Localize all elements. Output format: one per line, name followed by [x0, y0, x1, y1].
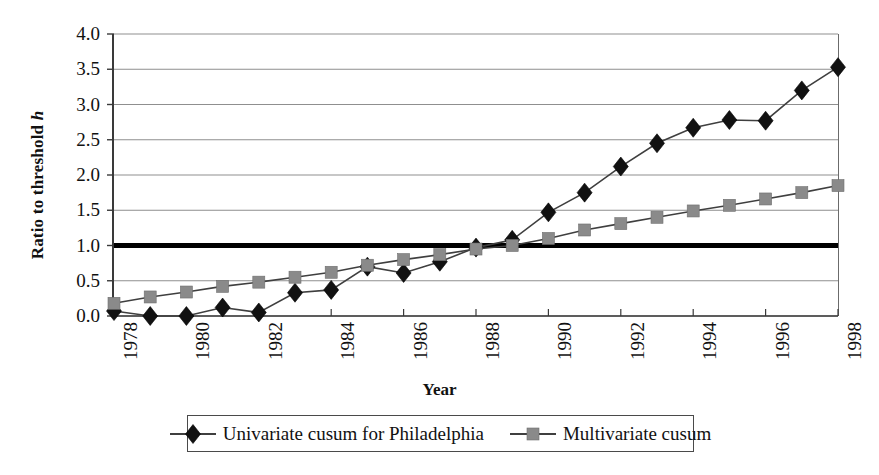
data-point-marker [722, 111, 737, 130]
legend-entry-1[interactable]: Univariate cusum for Philadelphia [170, 423, 484, 445]
x-axis-tick-label: 1996 [773, 322, 792, 360]
data-point-marker [398, 254, 410, 266]
legend-label: Multivariate cusum [563, 424, 711, 443]
data-point-marker [143, 307, 158, 326]
data-point-marker [541, 203, 556, 222]
data-point-marker [215, 298, 230, 317]
data-point-marker [434, 249, 446, 261]
y-axis-tick-label: 1.5 [54, 200, 100, 219]
data-point-marker [650, 134, 665, 153]
data-point-marker [185, 424, 200, 443]
data-point-marker [794, 81, 809, 100]
data-point-marker [108, 297, 120, 309]
data-point-marker [325, 266, 337, 278]
data-point-marker [527, 428, 539, 440]
data-point-marker [687, 205, 699, 217]
data-point-marker [613, 157, 628, 176]
x-axis-title: Year [0, 380, 879, 400]
data-point-marker [579, 224, 591, 236]
x-axis-tick-label: 1994 [700, 322, 719, 360]
x-axis-tick-label: 1990 [555, 322, 574, 360]
legend-label: Univariate cusum for Philadelphia [223, 424, 484, 443]
data-point-marker [144, 291, 156, 303]
legend-entry-2[interactable]: Multivariate cusum [510, 423, 711, 445]
data-point-marker [577, 183, 592, 202]
series-line [114, 67, 838, 316]
x-axis-tick-label: 1992 [628, 322, 647, 360]
x-axis-tick-label: 1978 [121, 322, 140, 360]
data-point-marker [396, 263, 411, 282]
y-axis-tick-label: 4.0 [54, 24, 100, 43]
y-axis-tick-label: 2.5 [54, 130, 100, 149]
y-axis-tick-label: 1.0 [54, 236, 100, 255]
x-axis-tick-label: 1982 [266, 322, 285, 360]
data-point-marker [542, 232, 554, 244]
data-point-marker [723, 199, 735, 211]
y-axis-tick-label: 0.0 [54, 306, 100, 325]
y-axis-tick-label: 0.5 [54, 271, 100, 290]
data-point-marker [180, 286, 192, 298]
data-point-marker [253, 276, 265, 288]
data-point-marker [760, 193, 772, 205]
x-axis-tick-label: 1980 [193, 322, 212, 360]
data-point-marker [470, 243, 482, 255]
y-axis-title-symbol: h [28, 111, 47, 121]
chart-legend: Univariate cusum for PhiladelphiaMultiva… [187, 415, 694, 452]
legend-diamond-marker-icon [170, 423, 216, 445]
data-point-marker [324, 280, 339, 299]
x-axis-tick-label: 1984 [338, 322, 357, 360]
x-axis-tick-label: 1998 [845, 322, 864, 360]
data-point-marker [288, 283, 303, 302]
data-point-marker [361, 259, 373, 271]
data-point-marker [796, 187, 808, 199]
chart-figure: Ratio to threshold h 0.00.51.01.52.02.53… [0, 0, 879, 475]
data-point-marker [651, 211, 663, 223]
y-axis-tick-label: 3.5 [54, 59, 100, 78]
data-point-marker [289, 271, 301, 283]
plot-area [112, 34, 839, 316]
data-point-marker [832, 180, 844, 192]
x-axis-tick-label: 1988 [483, 322, 502, 360]
y-axis-tick-label: 2.0 [54, 165, 100, 184]
y-axis-tick-label: 3.0 [54, 95, 100, 114]
data-layer [114, 34, 838, 316]
y-axis-title-text: Ratio to threshold [28, 120, 47, 259]
x-axis-tick-label: 1986 [411, 322, 430, 360]
legend-square-marker-icon [510, 423, 556, 445]
y-axis-title: Ratio to threshold h [28, 55, 48, 315]
data-point-marker [686, 118, 701, 137]
data-point-marker [758, 111, 773, 130]
data-point-marker [217, 280, 229, 292]
data-point-marker [506, 240, 518, 252]
data-point-marker [615, 218, 627, 230]
data-point-marker [251, 303, 266, 322]
data-point-marker [831, 58, 846, 77]
